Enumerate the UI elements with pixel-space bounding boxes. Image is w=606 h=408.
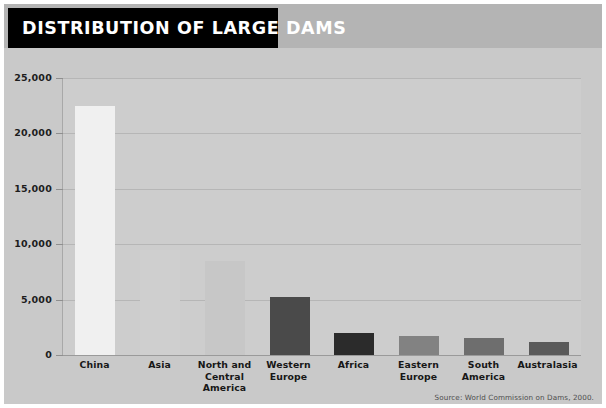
- category-label: Australasia: [515, 359, 580, 371]
- category-label: China: [62, 359, 127, 371]
- category-label: North andCentral America: [192, 359, 257, 394]
- category-label: WesternEurope: [256, 359, 321, 382]
- bar[interactable]: [270, 297, 310, 355]
- chart-figure: DISTRIBUTION OF LARGE DAMS 05,00010,0001…: [0, 0, 606, 408]
- y-axis-tick-label: 5,000: [21, 294, 52, 305]
- category-label-line: Europe: [386, 371, 451, 383]
- y-axis-tick-mark: [56, 189, 63, 190]
- bar[interactable]: [399, 336, 439, 355]
- bar[interactable]: [464, 338, 504, 355]
- y-axis-tick-mark: [56, 78, 63, 79]
- bar[interactable]: [140, 250, 180, 355]
- gridline: [63, 244, 581, 245]
- plot-wrapper: 05,00010,00015,00020,00025,000 ChinaAsia…: [4, 48, 602, 404]
- axis-baseline: [63, 355, 581, 356]
- y-axis-tick-mark: [56, 133, 63, 134]
- bar[interactable]: [334, 333, 374, 355]
- category-label: SouthAmerica: [451, 359, 516, 382]
- title-box: DISTRIBUTION OF LARGE DAMS: [8, 8, 278, 48]
- y-axis-tick-mark: [56, 300, 63, 301]
- y-axis-tick-label: 0: [45, 349, 52, 360]
- gridline: [63, 78, 581, 79]
- category-label-line: Eastern: [386, 359, 451, 371]
- category-label-line: South: [451, 359, 516, 371]
- y-axis-tick-label: 20,000: [14, 127, 52, 138]
- category-label-line: Africa: [321, 359, 386, 371]
- category-label-line: Europe: [256, 371, 321, 383]
- bar[interactable]: [529, 342, 569, 355]
- category-label-line: North and: [192, 359, 257, 371]
- y-axis-tick-mark: [56, 355, 63, 356]
- y-axis-tick-label: 25,000: [14, 72, 52, 83]
- category-label-line: America: [451, 371, 516, 383]
- category-label: EasternEurope: [386, 359, 451, 382]
- category-label: Asia: [127, 359, 192, 371]
- gridline: [63, 133, 581, 134]
- y-axis-tick-labels: 05,00010,00015,00020,00025,000: [4, 78, 52, 355]
- category-label-line: Western: [256, 359, 321, 371]
- title-band: DISTRIBUTION OF LARGE DAMS: [4, 4, 602, 48]
- y-axis-tick-label: 15,000: [14, 183, 52, 194]
- category-label-line: China: [62, 359, 127, 371]
- plot-area: [62, 78, 581, 355]
- category-label-line: Australasia: [515, 359, 580, 371]
- source-note: Source: World Commission on Dams, 2000.: [435, 393, 594, 402]
- chart-canvas: DISTRIBUTION OF LARGE DAMS 05,00010,0001…: [4, 4, 602, 404]
- page-title: DISTRIBUTION OF LARGE DAMS: [22, 18, 346, 38]
- bar[interactable]: [75, 106, 115, 355]
- category-label-line: Central America: [192, 371, 257, 394]
- category-label: Africa: [321, 359, 386, 371]
- gridline: [63, 189, 581, 190]
- y-axis-tick-label: 10,000: [14, 238, 52, 249]
- category-label-line: Asia: [127, 359, 192, 371]
- y-axis-tick-mark: [56, 244, 63, 245]
- bar[interactable]: [205, 261, 245, 355]
